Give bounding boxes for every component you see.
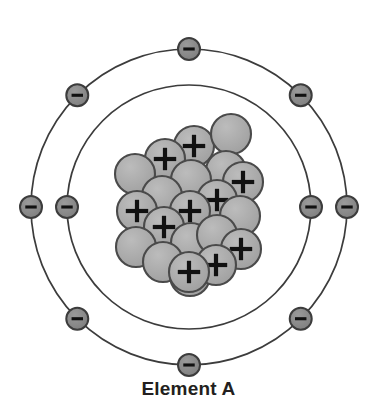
nucleus — [115, 114, 263, 296]
particle-circle — [211, 114, 251, 154]
electron-outer-left — [20, 196, 42, 218]
electron-outer-bottom-left — [66, 308, 88, 330]
neutron — [211, 114, 251, 154]
electron-outer-right — [336, 196, 358, 218]
electron-outer-top — [178, 38, 200, 60]
electron-inner-right — [300, 196, 322, 218]
electron-inner-left — [56, 196, 78, 218]
electron-outer-top-right — [290, 84, 312, 106]
electron-outer-bottom-right — [290, 308, 312, 330]
electron-outer-bottom — [178, 354, 200, 376]
proton — [169, 252, 209, 292]
element-label: Element A — [0, 378, 377, 400]
electron-outer-top-left — [66, 84, 88, 106]
atomic-structure-diagram — [0, 0, 377, 413]
